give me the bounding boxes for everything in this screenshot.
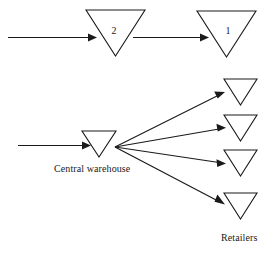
arrow-central-to-retailer-1 — [115, 92, 225, 147]
arrow-central-to-retailer-3 — [115, 147, 226, 167]
diagram-svg: 2 1 — [0, 0, 267, 253]
node-stage-1-label: 1 — [226, 25, 231, 36]
retailers-caption: Retailers — [221, 232, 257, 243]
arrow-inbound-to-central-warehouse — [18, 142, 91, 150]
node-retailer-2 — [224, 115, 257, 141]
central-warehouse-caption: Central warehouse — [54, 163, 130, 174]
node-stage-1: 1 — [197, 11, 256, 57]
node-stage-2-label: 2 — [112, 25, 117, 36]
diagram-canvas: 2 1 — [0, 0, 267, 253]
node-stage-2: 2 — [86, 10, 145, 56]
arrow-inbound-to-stage-2 — [8, 34, 97, 42]
node-retailer-3 — [224, 150, 257, 176]
arrow-central-to-retailer-2 — [115, 124, 226, 147]
node-retailer-1 — [224, 79, 257, 105]
arrow-stage-2-to-stage-1 — [133, 34, 209, 42]
node-retailer-4 — [224, 193, 257, 219]
